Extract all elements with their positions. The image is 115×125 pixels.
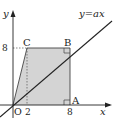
origin-label: O <box>14 106 22 117</box>
point-label-a: A <box>71 95 80 106</box>
tick-label-x-8: 8 <box>67 107 73 117</box>
coordinate-diagram: y x y=ax 8 2 8 O C B A <box>0 0 115 125</box>
x-axis-label: x <box>100 106 106 117</box>
point-label-b: B <box>64 37 71 48</box>
shaded-region-oabc <box>13 48 70 105</box>
point-label-c: C <box>23 37 31 48</box>
x-axis-arrow-icon <box>105 103 112 108</box>
line-label: y=ax <box>78 8 105 19</box>
y-axis-label: y <box>2 8 9 19</box>
tick-label-x-2: 2 <box>25 107 31 117</box>
tick-label-y-8: 8 <box>2 43 8 53</box>
y-axis-arrow-icon <box>11 10 16 17</box>
